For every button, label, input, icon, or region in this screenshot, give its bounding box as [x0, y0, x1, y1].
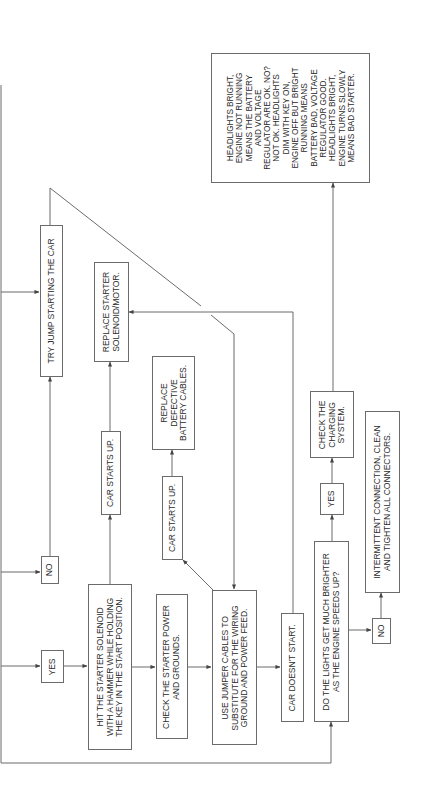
- no-text-top: NO: [45, 564, 55, 577]
- use-jumper-text: USE JUMPER CABLES TO SUBSTITUTE FOR THE …: [220, 605, 249, 730]
- car-starts-up-box-1: CAR STARTS UP.: [101, 431, 121, 515]
- use-jumper-box: USE JUMPER CABLES TO SUBSTITUTE FOR THE …: [212, 590, 257, 745]
- no-text-bottom: NO: [377, 625, 387, 638]
- replace-starter-text: REPLACE STARTER SOLENOID/MOTOR.: [102, 272, 121, 352]
- headlights-diagnosis-box: HEADLIGHTS BRIGHT, ENGINE NOT RUNNING ME…: [211, 53, 370, 183]
- flowchart-canvas: HEADLIGHTS BRIGHT, ENGINE NOT RUNNING ME…: [0, 0, 427, 799]
- try-jump-text: TRY JUMP STARTING THE CAR: [47, 239, 57, 364]
- replace-cables-text: REPLACE DEFECTIVE BATTERY CABLES.: [159, 365, 188, 441]
- try-jump-box: TRY JUMP STARTING THE CAR: [40, 225, 63, 377]
- hit-solenoid-box: HIT THE STARTER SOLENOID WITH A HAMMER W…: [88, 584, 132, 750]
- check-charging-box: CHECK THE CHARGING SYSTEM.: [310, 391, 354, 458]
- check-starter-power-box: CHECK THE STARTER POWER AND GROUNDS.: [156, 594, 188, 739]
- arrow-use-to-car-starts-2: [183, 560, 213, 590]
- intermittent-box: INTERMITTENT CONNECTION, CLEAN AND TIGHT…: [365, 411, 400, 593]
- car-doesnt-start-text: CAR DOESN'T START.: [288, 624, 298, 711]
- lights-brighter-question-text: DO THE LIGHTS GET MUCH BRIGHTER AS THE E…: [322, 553, 341, 711]
- yes-text-left: YES: [48, 658, 58, 675]
- hit-solenoid-text: HIT THE STARTER SOLENOID WITH A HAMMER W…: [96, 597, 125, 736]
- yes-box-left: YES: [41, 650, 64, 683]
- car-starts-up-text-2: CAR STARTS UP.: [168, 484, 178, 552]
- check-charging-text: CHECK THE CHARGING SYSTEM.: [318, 400, 347, 449]
- car-doesnt-start-box: CAR DOESN'T START.: [281, 613, 304, 722]
- car-starts-up-box-2: CAR STARTS UP.: [162, 476, 183, 560]
- yes-text-charging: YES: [327, 491, 337, 508]
- no-box-top: NO: [41, 556, 59, 584]
- lights-brighter-question-box: DO THE LIGHTS GET MUCH BRIGHTER AS THE E…: [314, 541, 349, 722]
- check-starter-power-text: CHECK THE STARTER POWER AND GROUNDS.: [162, 605, 181, 729]
- car-starts-up-text-1: CAR STARTS UP.: [106, 439, 116, 507]
- replace-cables-box: REPLACE DEFECTIVE BATTERY CABLES.: [152, 356, 195, 450]
- replace-starter-box: REPLACE STARTER SOLENOID/MOTOR.: [94, 262, 129, 362]
- no-box-bottom: NO: [372, 618, 391, 644]
- arrow-try-jump-to-use: [211, 315, 234, 589]
- headlights-diagnosis-text: HEADLIGHTS BRIGHT, ENGINE NOT RUNNING ME…: [225, 66, 355, 170]
- yes-box-charging: YES: [320, 483, 344, 515]
- intermittent-text: INTERMITTENT CONNECTION, CLEAN AND TIGHT…: [373, 425, 392, 578]
